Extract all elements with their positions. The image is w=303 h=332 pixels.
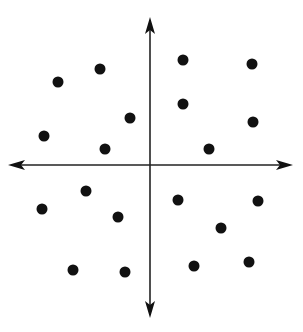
data-point <box>113 212 124 223</box>
data-point <box>173 195 184 206</box>
data-point <box>81 186 92 197</box>
quadrant-1 <box>178 55 259 155</box>
data-point <box>204 144 215 155</box>
data-point <box>100 144 111 155</box>
data-point <box>216 223 227 234</box>
data-point <box>125 113 136 124</box>
quadrant-4 <box>173 195 264 272</box>
data-point <box>39 131 50 142</box>
data-point <box>53 77 64 88</box>
data-point <box>37 204 48 215</box>
coordinate-plane-diagram <box>0 0 303 332</box>
data-point <box>178 99 189 110</box>
data-point <box>247 59 258 70</box>
scatter-plane-svg <box>0 0 303 332</box>
data-point <box>253 196 264 207</box>
quadrant-2 <box>39 64 136 155</box>
data-point <box>120 267 131 278</box>
data-point <box>68 265 79 276</box>
y-axis <box>145 17 155 318</box>
data-point <box>95 64 106 75</box>
quadrant-3 <box>37 186 131 278</box>
data-point <box>244 257 255 268</box>
data-point <box>178 55 189 66</box>
data-point <box>189 261 200 272</box>
data-point <box>248 117 259 128</box>
